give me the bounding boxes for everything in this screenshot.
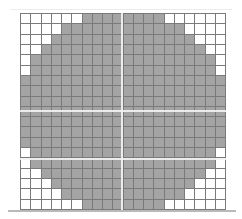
filled-cell	[144, 76, 154, 86]
filled-cell	[42, 148, 52, 158]
empty-cell	[31, 24, 41, 34]
filled-cell	[83, 55, 93, 65]
filled-cell	[42, 97, 52, 107]
filled-cell	[124, 138, 134, 148]
filled-cell	[93, 86, 103, 96]
filled-cell	[21, 138, 31, 148]
filled-cell	[165, 55, 175, 65]
empty-cell	[21, 45, 31, 55]
filled-cell	[154, 179, 164, 189]
filled-cell	[154, 127, 164, 137]
empty-cell	[195, 14, 205, 24]
filled-cell	[62, 138, 72, 148]
filled-cell	[21, 97, 31, 107]
filled-cell	[185, 35, 195, 45]
filled-cell	[42, 127, 52, 137]
filled-cell	[195, 55, 205, 65]
filled-cell	[52, 138, 62, 148]
empty-cell	[216, 35, 226, 45]
filled-cell	[21, 76, 31, 86]
filled-cell	[103, 55, 113, 65]
filled-cell	[175, 55, 185, 65]
filled-cell	[134, 169, 144, 179]
filled-cell	[21, 127, 31, 137]
filled-cell	[165, 97, 175, 107]
filled-cell	[185, 179, 195, 189]
filled-cell	[154, 138, 164, 148]
filled-cell	[154, 189, 164, 199]
filled-cell	[124, 55, 134, 65]
filled-cell	[31, 127, 41, 137]
empty-cell	[165, 200, 175, 210]
filled-cell	[165, 45, 175, 55]
filled-cell	[83, 66, 93, 76]
filled-cell	[175, 35, 185, 45]
filled-cell	[124, 14, 134, 24]
filled-cell	[185, 148, 195, 158]
filled-cell	[195, 86, 205, 96]
filled-cell	[154, 66, 164, 76]
filled-cell	[216, 86, 226, 96]
filled-cell	[134, 97, 144, 107]
empty-cell	[21, 55, 31, 65]
empty-cell	[52, 200, 62, 210]
horizontal-highlight-line-2	[20, 158, 226, 160]
empty-cell	[31, 189, 41, 199]
filled-cell	[42, 138, 52, 148]
filled-cell	[154, 55, 164, 65]
filled-cell	[124, 189, 134, 199]
filled-cell	[103, 97, 113, 107]
filled-cell	[62, 189, 72, 199]
filled-cell	[124, 117, 134, 127]
filled-cell	[93, 138, 103, 148]
filled-cell	[93, 148, 103, 158]
filled-cell	[62, 179, 72, 189]
filled-cell	[83, 97, 93, 107]
filled-cell	[31, 117, 41, 127]
filled-cell	[52, 66, 62, 76]
filled-cell	[165, 189, 175, 199]
empty-cell	[216, 45, 226, 55]
filled-cell	[83, 169, 93, 179]
filled-cell	[175, 179, 185, 189]
horizontal-highlight-line-1	[20, 110, 226, 112]
empty-cell	[175, 14, 185, 24]
filled-cell	[144, 200, 154, 210]
filled-cell	[144, 97, 154, 107]
filled-cell	[165, 35, 175, 45]
filled-cell	[144, 127, 154, 137]
filled-cell	[124, 86, 134, 96]
filled-cell	[144, 14, 154, 24]
filled-cell	[134, 179, 144, 189]
filled-cell	[93, 179, 103, 189]
filled-cell	[72, 45, 82, 55]
filled-cell	[124, 76, 134, 86]
filled-cell	[103, 14, 113, 24]
empty-cell	[216, 24, 226, 34]
filled-cell	[154, 86, 164, 96]
filled-cell	[103, 86, 113, 96]
filled-cell	[93, 24, 103, 34]
filled-cell	[185, 138, 195, 148]
filled-cell	[93, 35, 103, 45]
filled-cell	[144, 179, 154, 189]
filled-cell	[62, 45, 72, 55]
empty-cell	[31, 45, 41, 55]
filled-cell	[103, 169, 113, 179]
filled-cell	[124, 35, 134, 45]
filled-cell	[206, 127, 216, 137]
filled-cell	[72, 127, 82, 137]
filled-cell	[83, 35, 93, 45]
filled-cell	[206, 148, 216, 158]
filled-cell	[144, 35, 154, 45]
filled-cell	[134, 55, 144, 65]
empty-cell	[165, 14, 175, 24]
filled-cell	[154, 76, 164, 86]
filled-cell	[83, 117, 93, 127]
filled-cell	[83, 138, 93, 148]
filled-cell	[216, 138, 226, 148]
filled-cell	[83, 76, 93, 86]
filled-cell	[134, 148, 144, 158]
filled-cell	[195, 127, 205, 137]
filled-cell	[134, 14, 144, 24]
